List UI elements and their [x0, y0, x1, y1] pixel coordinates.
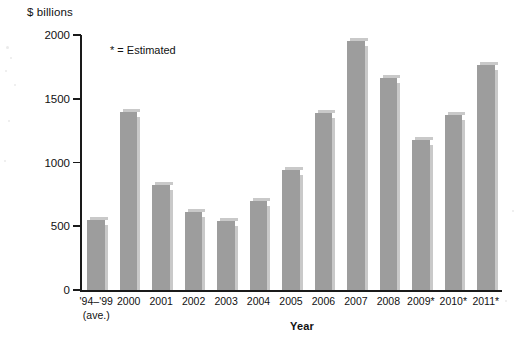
- bar[interactable]: [347, 41, 365, 290]
- x-tick-label: 2009*: [407, 295, 434, 307]
- x-tick-label: 2002: [182, 295, 205, 307]
- scan-speckle: [505, 300, 507, 302]
- scan-speckle: [14, 84, 16, 86]
- bar-column[interactable]: [477, 35, 495, 290]
- bar[interactable]: [315, 113, 333, 290]
- y-tick-label: 2000: [0, 29, 70, 41]
- x-tick-label: 2005: [279, 295, 302, 307]
- scan-speckle: [6, 46, 9, 49]
- bar[interactable]: [120, 112, 138, 291]
- chart-canvas: $ billions * = Estimated 050010001500200…: [0, 0, 525, 347]
- x-tick-label: 2011*: [472, 295, 499, 307]
- y-tick-label: 1000: [0, 157, 70, 169]
- bar-column[interactable]: [185, 35, 203, 290]
- y-tick-label: 500: [0, 220, 70, 232]
- x-axis-labels: '94–'99(ave.)200020012002200320042005200…: [80, 295, 502, 341]
- bar-column[interactable]: [445, 35, 463, 290]
- bar[interactable]: [412, 140, 430, 290]
- bar[interactable]: [250, 201, 268, 290]
- x-tick-label: 2006: [312, 295, 335, 307]
- x-tick-label: 2010*: [440, 295, 467, 307]
- x-tick-label: 2003: [214, 295, 237, 307]
- bar-column[interactable]: [217, 35, 235, 290]
- x-tick-label: '94–'99(ave.): [80, 295, 113, 321]
- x-tick-sublabel: (ave.): [80, 309, 113, 321]
- y-tick-label: 1500: [0, 93, 70, 105]
- bar[interactable]: [282, 170, 300, 290]
- scan-speckle: [8, 120, 10, 122]
- x-tick-label: 2007: [344, 295, 367, 307]
- scan-speckle: [5, 70, 7, 72]
- bar-column[interactable]: [152, 35, 170, 290]
- bar-column[interactable]: [250, 35, 268, 290]
- x-axis-line: [80, 290, 502, 292]
- bar[interactable]: [185, 212, 203, 290]
- bar[interactable]: [152, 185, 170, 290]
- bar-column[interactable]: [347, 35, 365, 290]
- bar[interactable]: [477, 65, 495, 290]
- bar[interactable]: [445, 115, 463, 290]
- bar-column[interactable]: [120, 35, 138, 290]
- bar-column[interactable]: [87, 35, 105, 290]
- x-tick-label: 2000: [117, 295, 140, 307]
- x-tick-label: 2001: [149, 295, 172, 307]
- bar[interactable]: [217, 221, 235, 290]
- bar-column[interactable]: [282, 35, 300, 290]
- scan-speckle: [512, 210, 514, 212]
- x-tick-label: 2004: [247, 295, 270, 307]
- y-tick-label: 0: [0, 284, 70, 296]
- bar[interactable]: [87, 220, 105, 290]
- y-axis-label: $ billions: [27, 6, 73, 18]
- scan-speckle: [10, 57, 12, 59]
- bar-series: [80, 35, 502, 290]
- x-tick-label: 2008: [377, 295, 400, 307]
- bar-column[interactable]: [315, 35, 333, 290]
- x-axis-title: Year: [290, 320, 314, 332]
- bar[interactable]: [380, 78, 398, 290]
- bar-column[interactable]: [412, 35, 430, 290]
- bar-column[interactable]: [380, 35, 398, 290]
